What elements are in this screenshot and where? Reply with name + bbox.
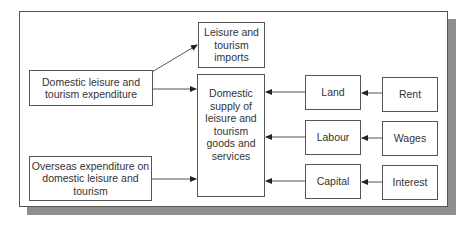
land-box: Land xyxy=(305,75,361,110)
domestic-supply-label: Domestic supply of leisure and tourism g… xyxy=(202,87,260,162)
interest-box: Interest xyxy=(382,165,438,200)
rent-box: Rent xyxy=(382,77,438,112)
overseas-expenditure-label: Overseas expenditure on domestic leisure… xyxy=(32,160,150,198)
imports-label: Leisure and tourism imports xyxy=(201,26,263,64)
overseas-expenditure-box: Overseas expenditure on domestic leisure… xyxy=(29,156,152,201)
domestic-supply-box: Domestic supply of leisure and tourism g… xyxy=(197,74,265,197)
rent-label: Rent xyxy=(399,88,421,101)
capital-label: Capital xyxy=(317,175,350,188)
domestic-expenditure-label: Domestic leisure and tourism expenditure xyxy=(41,76,141,101)
wages-box: Wages xyxy=(382,121,438,156)
interest-label: Interest xyxy=(392,176,427,189)
land-label: Land xyxy=(321,86,344,99)
imports-box: Leisure and tourism imports xyxy=(198,22,265,68)
domestic-expenditure-box: Domestic leisure and tourism expenditure xyxy=(29,70,153,106)
capital-box: Capital xyxy=(305,164,361,199)
wages-label: Wages xyxy=(394,132,426,145)
labour-label: Labour xyxy=(317,131,350,144)
labour-box: Labour xyxy=(305,120,361,155)
